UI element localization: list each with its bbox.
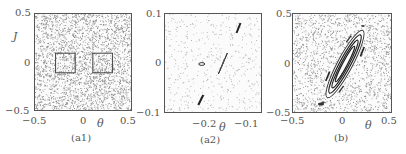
ytick-mid-a1: 0 — [24, 58, 30, 68]
xtick-left-b: −0.5 — [280, 116, 304, 126]
xtick-left-a2: −0.2 — [192, 119, 216, 129]
xtick-right-b: 0.5 — [381, 116, 397, 126]
ytick-mid-b: 0 — [284, 59, 290, 69]
xlabel-a2: θ — [219, 122, 226, 133]
ytick-mid-a2: 0 — [155, 58, 161, 68]
xtick-mid-a1: 0 — [80, 116, 86, 126]
scatter-points-a1 — [35, 14, 132, 111]
ytick-top-a2: 0.1 — [146, 9, 162, 19]
xlabel-a1: θ — [97, 118, 104, 129]
xtick-left-a1: −0.5 — [22, 116, 46, 126]
ytick-bot-a2: −0.1 — [136, 108, 160, 118]
xtick-right-a1: 0.5 — [120, 116, 136, 126]
xlabel-b: θ — [365, 120, 372, 131]
scatter-points-a2 — [165, 14, 262, 113]
scatter-points-b — [293, 14, 392, 113]
ylabel-a1: J — [13, 31, 17, 42]
caption-a2: (a2) — [200, 135, 220, 145]
plot-area-a1 — [34, 13, 132, 111]
caption-b: (b) — [334, 133, 348, 143]
plot-area-a2 — [164, 13, 262, 113]
ytick-top-a1: 0.5 — [15, 8, 31, 18]
caption-a1: (a1) — [71, 133, 91, 143]
plot-area-b — [292, 13, 392, 113]
xtick-right-a2: −0.1 — [234, 119, 258, 129]
xtick-mid-b: 0 — [339, 116, 345, 126]
ytick-top-b: 0.5 — [276, 9, 292, 19]
